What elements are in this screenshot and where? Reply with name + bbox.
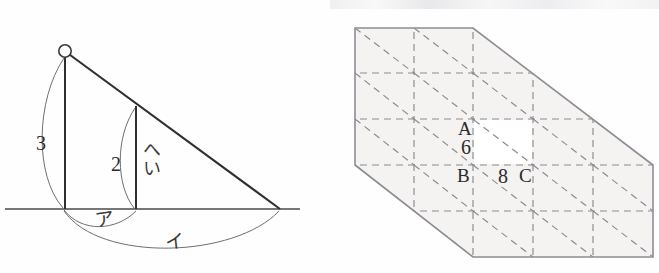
label-segment-i: イ — [164, 231, 185, 252]
label-length-8: 8 — [498, 166, 508, 186]
label-point-C: C — [519, 166, 532, 185]
label-length-2: 2 — [111, 154, 121, 174]
label-length-3: 3 — [36, 133, 46, 153]
label-hei-vertical: へい — [141, 140, 159, 178]
arc-length-2 — [120, 108, 135, 208]
label-point-B: B — [457, 166, 470, 185]
worksheet-page: 3 2 へい ア イ A 6 B 8 C — [0, 0, 659, 273]
apex-pivot-circle — [59, 45, 71, 57]
hypotenuse — [66, 52, 280, 209]
label-segment-a: ア — [94, 209, 115, 230]
left-figure-canvas — [0, 0, 659, 273]
label-length-6: 6 — [461, 137, 471, 157]
